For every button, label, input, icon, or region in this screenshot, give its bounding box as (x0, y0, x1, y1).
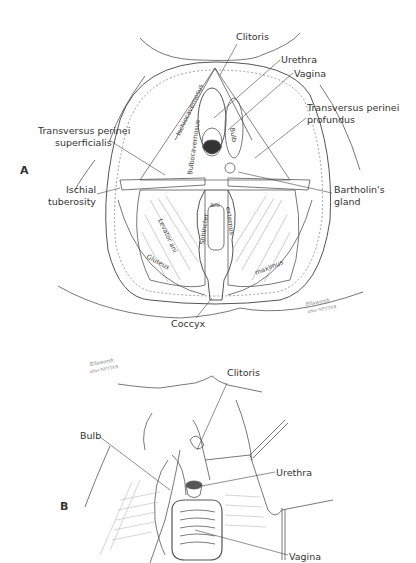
label-a-transversus-perinei-superficialis-1: Transversus perinei (38, 125, 130, 136)
label-a-vagina: Vagina (294, 68, 326, 79)
label-a-clitoris: Clitoris (236, 31, 269, 42)
panel-letter-a: A (20, 164, 29, 177)
label-ani: ani (210, 201, 220, 209)
label-a-coccyx: Coccyx (171, 318, 205, 329)
label-a-transversus-perinei-superficialis-2: superficialis (55, 137, 112, 148)
label-sphincter: Sphincter (198, 213, 210, 245)
label-a-transversus-perinei-profundus-2: profundus (307, 114, 355, 125)
label-a-bartholins-gland-1: Bartholin's (334, 184, 385, 195)
label-a-transversus-perinei-profundus-1: Transversus perinei (307, 102, 399, 113)
panel-letter-b: B (60, 500, 68, 513)
label-a-bartholins-gland-2: gland (334, 196, 361, 207)
label-a-ischial-tuberosity-2: tuberosity (46, 196, 96, 207)
anatomy-illustration: Ischiocavernosus Bulbocavernosus Bulb Le… (0, 0, 416, 563)
label-ischiocavernosus: Ischiocavernosus (175, 82, 206, 136)
label-b-vagina: Vagina (289, 551, 321, 562)
label-b-clitoris: Clitoris (227, 367, 260, 378)
label-a-ischial-tuberosity-1: Ischial (66, 184, 96, 195)
label-levator-ani: Levator ani (156, 217, 179, 254)
label-bulbocavernosus: Bulbocavernosus (186, 119, 202, 176)
label-a-urethra: Urethra (281, 54, 317, 65)
label-bulb-a: Bulb (228, 127, 238, 143)
label-externus: externus (224, 206, 236, 236)
label-b-urethra: Urethra (276, 467, 312, 478)
label-b-bulb: Bulb (80, 430, 101, 441)
